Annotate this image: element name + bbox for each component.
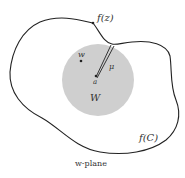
label-W: W: [90, 92, 101, 103]
label-fC: f(C): [138, 132, 158, 143]
point-a: [95, 75, 98, 78]
label-fz: f(z): [96, 12, 114, 23]
label-a: a: [93, 78, 97, 86]
point-fz: [92, 22, 95, 25]
label-w: w: [78, 50, 85, 59]
label-mu: μ: [109, 62, 114, 71]
disk-W: [62, 44, 134, 116]
point-w: [80, 60, 83, 63]
w-plane-diagram: f(z) w μ a W f(C) w-plane: [0, 0, 185, 178]
caption: w-plane: [75, 159, 107, 168]
